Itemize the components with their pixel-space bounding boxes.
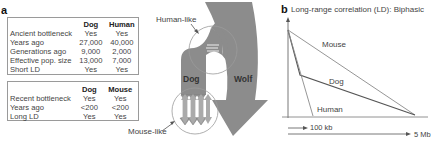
series-label-human: Human	[317, 105, 343, 114]
wolf-label: Wolf	[234, 74, 252, 84]
panel-b-label: b	[281, 3, 288, 15]
ld-chart	[282, 17, 428, 136]
figure-graphics: Human-like Mouse-like Dog Wolf Mouse Dog…	[0, 0, 431, 143]
human-line	[288, 30, 313, 116]
human-like-label: Human-like	[156, 15, 197, 24]
mouse-like-label: Mouse-like	[128, 127, 167, 136]
series-label-mouse: Mouse	[322, 40, 347, 49]
scale-label-5mb: 5 Mb	[414, 130, 431, 139]
dog-label: Dog	[183, 74, 200, 84]
scale-label-100kb: 100 kb	[310, 123, 333, 132]
mouse-line	[288, 30, 415, 115]
series-label-dog: Dog	[329, 77, 344, 86]
chart-title: Long-range correlation (LD): Biphasic	[291, 5, 424, 14]
